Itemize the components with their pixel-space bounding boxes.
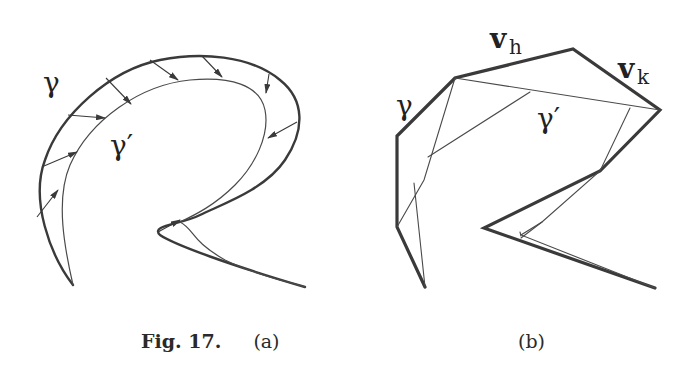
label-gamma-a: γ [43, 66, 60, 99]
displacement-arrows [37, 56, 297, 232]
svg-text:h: h [509, 35, 522, 59]
caption-b: (b) [518, 330, 545, 352]
figure-canvas: γ γ′ γ γ′ v h v k [0, 0, 695, 387]
svg-text:k: k [637, 65, 650, 89]
svg-text:v: v [489, 22, 507, 55]
panel-a: γ γ′ [37, 56, 305, 287]
curve-gamma [40, 56, 305, 287]
panel-b: γ γ′ v h v k [396, 22, 660, 288]
curve-gamma-prime [62, 79, 305, 287]
polygon-gamma-prime [397, 78, 660, 288]
label-vertex-k: v k [617, 52, 650, 89]
caption-a: Fig. 17. (a) [141, 330, 280, 352]
label-gamma-b: γ [396, 89, 413, 122]
svg-text:v: v [617, 52, 635, 85]
panel-b-label: (b) [518, 330, 545, 352]
label-gamma-prime-a: γ′ [110, 129, 133, 162]
label-gamma-prime-b: γ′ [537, 102, 560, 135]
label-vertex-h: v h [489, 22, 522, 59]
figure-number: Fig. 17. [141, 330, 221, 352]
panel-a-label: (a) [253, 330, 279, 352]
